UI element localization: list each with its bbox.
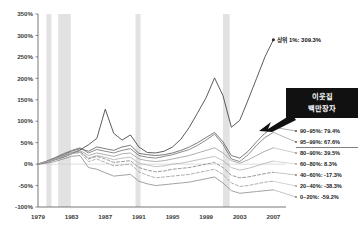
x-tick-label: 2003 (233, 213, 247, 220)
x-tick-label: 1983 (65, 213, 79, 220)
y-tick-label: 150% (17, 96, 33, 103)
y-tick-label: 200% (17, 75, 33, 82)
series-endpoint-marker (295, 185, 297, 187)
series-label-4: 60~80%: 8.3% (300, 161, 337, 167)
top-series-label: 상위 1%: 309.3% (277, 36, 321, 44)
y-tick-label: 0% (24, 160, 33, 167)
series-endpoint-marker (295, 174, 297, 176)
callout-line-2: 백만장자 (308, 104, 336, 113)
callout-line-1: 이웃집 (312, 92, 333, 101)
series-label-7: 0~20%: -59.2% (300, 194, 339, 200)
series-label-1: 90~95%: 79.4% (300, 128, 340, 134)
y-tick-label: -50% (19, 182, 34, 189)
y-tick-label: 250% (17, 53, 33, 60)
series-endpoint-marker (295, 196, 297, 198)
top-series-label-group: 상위 1%: 309.3% (272, 36, 322, 44)
recession-band-4 (223, 14, 230, 207)
wealth-percentile-line-chart: 350%300%250%200%150%100%50%0%-50%-100% 1… (0, 0, 364, 243)
x-tick-label: 1987 (98, 213, 112, 220)
series-endpoint-marker (295, 163, 297, 165)
series-endpoint-marker (295, 130, 297, 132)
series-label-3: 80~90%: 39.5% (300, 150, 340, 156)
y-tick-label: 50% (21, 139, 34, 146)
x-tick-label: 1979 (31, 213, 45, 220)
y-tick-label: 350% (17, 10, 33, 17)
series-label-6: 20~40%: -38.3% (300, 183, 342, 189)
y-tick-label: -100% (15, 203, 33, 210)
recession-band-1 (46, 14, 51, 207)
series-label-2: 95~99%: 67.6% (300, 139, 340, 145)
y-tick-label: 300% (17, 32, 33, 39)
top-series-endpoint-marker (272, 38, 275, 41)
y-tick-label: 100% (17, 117, 33, 124)
x-tick-label: 1999 (199, 213, 213, 220)
recession-band-3 (136, 14, 141, 207)
x-tick-label: 1995 (166, 213, 180, 220)
x-tick-label: 1991 (132, 213, 146, 220)
series-label-5: 40~60%: -17.3% (300, 172, 342, 178)
recession-band-2 (58, 14, 71, 207)
series-endpoint-marker (295, 141, 297, 143)
chart-canvas: 350%300%250%200%150%100%50%0%-50%-100% 1… (0, 0, 364, 243)
x-tick-label: 2007 (267, 213, 281, 220)
series-endpoint-marker (295, 152, 297, 154)
